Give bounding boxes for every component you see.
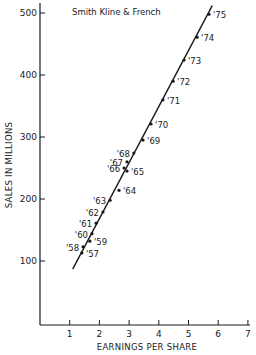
- data-point: [88, 240, 91, 243]
- data-point-label: '69: [147, 136, 160, 146]
- data-point: [171, 80, 174, 83]
- chart-title: Smith Kline & French: [72, 7, 161, 17]
- data-point-label: '74: [201, 33, 214, 43]
- x-axis-title: EARNINGS PER SHARE: [97, 342, 197, 352]
- x-tick-label: 3: [126, 329, 132, 339]
- data-point: [90, 232, 93, 235]
- y-tick-label: 300: [20, 132, 37, 142]
- data-point-label: '65: [131, 167, 144, 177]
- data-point-label: '57: [86, 249, 99, 259]
- x-tick-label: 5: [186, 329, 192, 339]
- x-tick-label: 6: [215, 329, 221, 339]
- data-point-label: '64: [123, 186, 136, 196]
- data-point-label: '59: [94, 237, 107, 247]
- data-point-label: '73: [188, 56, 201, 66]
- data-point: [149, 122, 152, 125]
- data-point-label: '70: [155, 120, 168, 130]
- data-point: [101, 210, 104, 213]
- y-tick-label: 100: [20, 256, 37, 266]
- y-tick-label: 200: [20, 194, 37, 204]
- y-axis-title: SALES IN MILLIONS: [4, 122, 14, 209]
- data-point: [117, 189, 120, 192]
- data-point-label: '75: [213, 10, 226, 20]
- data-point-label: '61: [79, 219, 92, 229]
- data-point-label: '72: [177, 77, 190, 87]
- data-points: '57'58'59'60'61'62'63'64'65'66'67'68'69'…: [66, 10, 226, 259]
- scatter-chart: Smith Kline & French 100200300400500 123…: [0, 0, 256, 355]
- data-point: [80, 251, 83, 254]
- data-point: [132, 152, 135, 155]
- data-point: [196, 36, 199, 39]
- data-point-label: '58: [66, 243, 79, 253]
- x-tick-label: 7: [245, 329, 251, 339]
- trend-line: [73, 6, 213, 270]
- x-tick-label: 2: [97, 329, 103, 339]
- data-point-label: '60: [75, 230, 88, 240]
- y-tick-label: 400: [20, 70, 37, 80]
- data-point: [81, 245, 84, 248]
- data-point-label: '63: [93, 196, 106, 206]
- data-point: [141, 139, 144, 142]
- y-ticks: 100200300400500: [20, 8, 45, 266]
- y-tick-label: 500: [20, 8, 37, 18]
- data-point: [207, 13, 210, 16]
- data-point: [95, 222, 98, 225]
- x-tick-label: 4: [156, 329, 162, 339]
- x-ticks: 1234567: [67, 320, 251, 339]
- data-point-label: '68: [117, 149, 130, 159]
- data-point: [125, 160, 128, 163]
- data-point: [108, 199, 111, 202]
- data-point: [182, 59, 185, 62]
- data-point-label: '67: [110, 158, 123, 168]
- x-tick-label: 1: [67, 329, 73, 339]
- data-point-label: '71: [167, 96, 180, 106]
- data-point-label: '62: [86, 208, 99, 218]
- data-point: [161, 98, 164, 101]
- data-point: [125, 170, 128, 173]
